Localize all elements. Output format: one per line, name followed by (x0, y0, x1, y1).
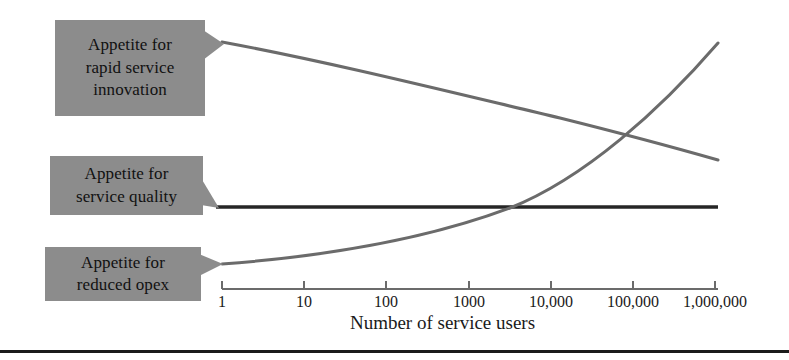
callout-appetite-service-quality: Appetite for service quality (50, 156, 203, 215)
x-tick-label-1000000: 1,000,000 (683, 293, 747, 311)
callout-innovation-line-2: rapid service (86, 57, 175, 79)
callout-appetite-rapid-service-innovation: Appetite for rapid service innovation (55, 20, 205, 116)
x-tick-label-10: 10 (296, 293, 312, 311)
x-tick-label-100: 100 (374, 293, 398, 311)
callout-quality-line-1: Appetite for (85, 163, 169, 185)
callout-opex-line-2: reduced opex (77, 274, 169, 296)
callout-pointer-innovation (203, 30, 224, 60)
callout-appetite-reduced-opex: Appetite for reduced opex (45, 247, 201, 301)
x-tick-label-100000: 100,000 (607, 293, 659, 311)
callout-quality-line-2: service quality (76, 186, 177, 208)
callout-innovation-line-3: innovation (93, 79, 167, 101)
x-axis-title-text: Number of service users (350, 312, 535, 333)
x-axis (222, 281, 718, 289)
series-line-opex (222, 43, 718, 264)
callout-opex-line-1: Appetite for (81, 252, 165, 274)
callout-pointer-quality (201, 178, 219, 208)
figure-bottom-rule (0, 350, 789, 353)
callout-pointer-opex (199, 254, 223, 276)
x-tick-label-10000: 10,000 (529, 293, 573, 311)
x-axis-title: Number of service users (0, 312, 789, 334)
callout-innovation-line-1: Appetite for (88, 34, 172, 56)
chart-figure: Appetite for rapid service innovation Ap… (0, 0, 789, 360)
x-tick-label-1000: 1000 (453, 293, 485, 311)
x-tick-label-1: 1 (218, 293, 226, 311)
series-line-innovation (222, 42, 718, 160)
